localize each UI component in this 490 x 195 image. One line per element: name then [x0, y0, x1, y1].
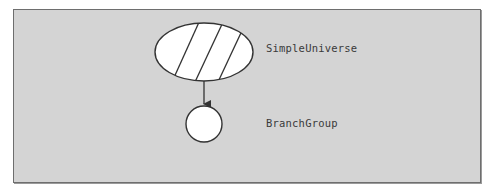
- branch-group-label: BranchGroup: [266, 117, 338, 129]
- scene-graph-diagram: [0, 0, 490, 195]
- simple-universe-label: SimpleUniverse: [266, 42, 357, 54]
- branch-group-node: [186, 106, 222, 142]
- simple-universe-node: [155, 20, 253, 82]
